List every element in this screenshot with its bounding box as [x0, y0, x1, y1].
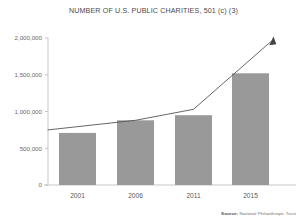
y-tick-label: 500,000 [20, 145, 43, 152]
bar-2011 [175, 115, 212, 185]
y-tick-label: 1,000,000 [14, 108, 42, 115]
bar-2006 [117, 120, 154, 185]
y-tick-label: 2,000,000 [14, 34, 42, 41]
y-tick-label: 0 [39, 181, 43, 188]
chart-plot-area: 0 500,000 1,000,000 1,500,000 2,000,000 … [0, 0, 307, 222]
y-tick-label: 1,500,000 [14, 71, 42, 78]
trend-arrow-head [269, 37, 276, 46]
x-tick-label: 2001 [70, 192, 85, 199]
bar-2001 [59, 133, 96, 185]
source-text: National Philanthropic Trust [240, 211, 297, 216]
x-tick-label: 2015 [243, 192, 258, 199]
x-tick-label: 2011 [186, 192, 201, 199]
source-label: Source: [221, 211, 238, 216]
bar-2015 [232, 73, 269, 185]
x-tick-label: 2006 [128, 192, 143, 199]
chart-figure: NUMBER OF U.S. PUBLIC CHARITIES, 501 (c)… [0, 0, 307, 222]
source-note: Source: National Philanthropic Trust [221, 211, 296, 216]
